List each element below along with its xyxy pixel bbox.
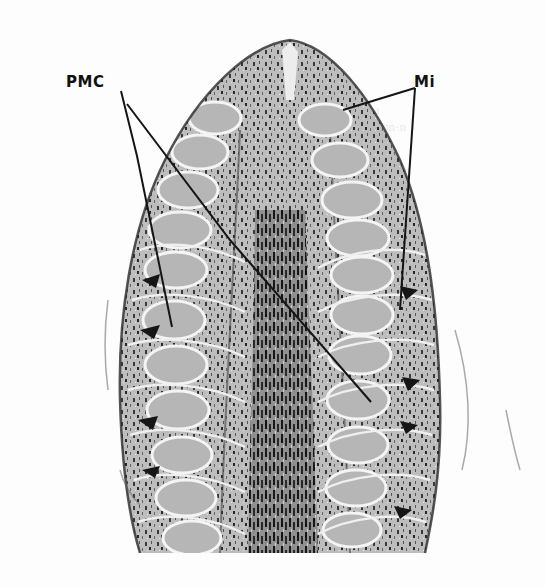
label-mi: Mi [414,73,435,91]
figure-page: ith·()(Classif... of th... na tion·fro·g… [0,0,545,587]
organ-section [100,30,460,570]
label-pmc: PMC [66,73,104,91]
